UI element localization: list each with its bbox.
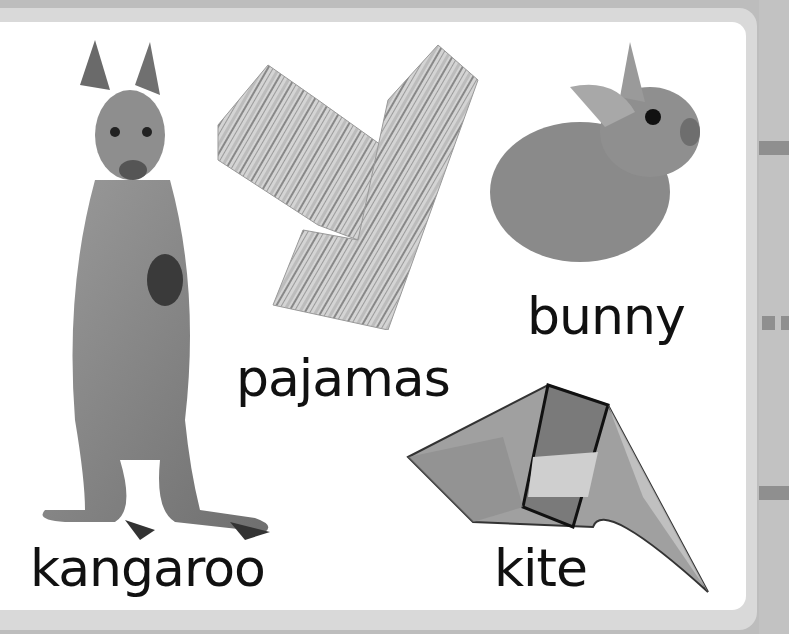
bunny-label: bunny xyxy=(527,290,685,342)
page-edge-tab xyxy=(759,141,789,155)
pajamas-label: pajamas xyxy=(236,352,450,404)
pajamas-image xyxy=(208,30,488,330)
page-edge-tab xyxy=(759,486,789,500)
picture-card: kangaroo pajamas bunny kite xyxy=(0,22,746,610)
bunny-image xyxy=(485,42,715,282)
kite-label: kite xyxy=(494,542,587,594)
page-edge-tab xyxy=(781,316,789,330)
page-edge-tab xyxy=(762,316,775,330)
kangaroo-label: kangaroo xyxy=(30,542,265,594)
